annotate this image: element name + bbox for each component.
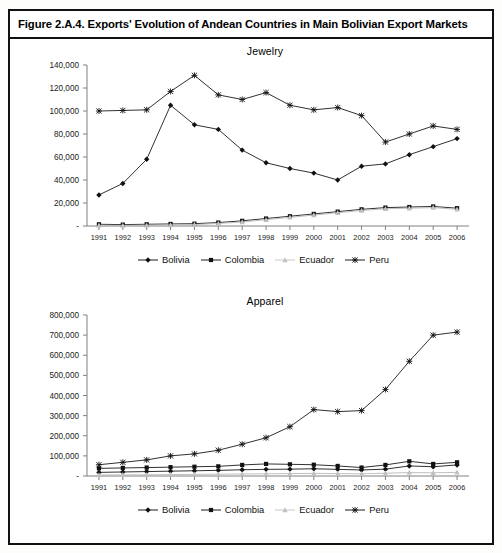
x-tick-label: 1992 xyxy=(115,483,131,492)
marker-diamond xyxy=(335,177,340,182)
marker-cross xyxy=(335,409,341,415)
series-line-colombia xyxy=(99,206,457,224)
marker-cross xyxy=(382,139,388,145)
legend-marker-triangle-icon xyxy=(274,505,296,515)
x-tick-label: 1999 xyxy=(282,233,298,242)
x-tick-label: 2001 xyxy=(329,233,345,242)
y-tick-label: 20,000 xyxy=(54,199,79,208)
marker-diamond xyxy=(407,463,412,468)
x-tick-label: 1996 xyxy=(210,233,226,242)
marker-square xyxy=(240,463,244,467)
legend-marker-square-icon xyxy=(200,505,222,515)
legend-item-peru[interactable]: Peru xyxy=(344,504,389,515)
legend-marker-square-icon xyxy=(200,255,222,265)
legend-item-colombia[interactable]: Colombia xyxy=(200,254,265,265)
marker-cross xyxy=(168,88,174,94)
x-tick-label: 2004 xyxy=(401,483,417,492)
series-line-ecuador xyxy=(99,208,457,226)
chart-jewelry: Jewelry -20,00040,00060,00080,000100,000… xyxy=(10,39,492,289)
marker-cross xyxy=(263,90,269,96)
x-tick-label: 1995 xyxy=(186,233,202,242)
figure-frame: Figure 2.A.4. Exports' Evolution of Ande… xyxy=(8,9,494,545)
legend-label: Peru xyxy=(369,504,389,515)
marker-square xyxy=(264,462,268,466)
x-tick-label: 2002 xyxy=(353,233,369,242)
marker-cross xyxy=(215,447,221,453)
legend-jewelry: BoliviaColombiaEcuadorPeru xyxy=(10,254,492,265)
marker-cross xyxy=(335,105,341,111)
y-tick-label: 100,000 xyxy=(49,452,79,461)
legend-label: Ecuador xyxy=(299,254,334,265)
y-tick-label: - xyxy=(76,222,79,231)
marker-cross xyxy=(120,107,126,113)
legend-marker-diamond-icon xyxy=(137,255,159,265)
chart-apparel: Apparel -100,000200,000300,000400,000500… xyxy=(10,289,492,541)
series-line-ecuador xyxy=(99,472,457,475)
marker-cross xyxy=(287,424,293,430)
y-tick-label: 700,000 xyxy=(49,331,79,340)
marker-cross xyxy=(406,131,412,137)
y-tick-label: 600,000 xyxy=(49,351,79,360)
x-tick-label: 1997 xyxy=(234,233,250,242)
x-tick-label: 2000 xyxy=(306,483,322,492)
x-tick-label: 2005 xyxy=(425,483,441,492)
marker-diamond xyxy=(263,160,268,165)
marker-square xyxy=(336,464,340,468)
legend-label: Colombia xyxy=(225,504,265,515)
marker-square xyxy=(455,460,459,464)
series-line-colombia xyxy=(99,461,457,468)
marker-square xyxy=(407,459,411,463)
y-tick-label: 40,000 xyxy=(54,176,79,185)
x-tick-label: 1992 xyxy=(115,233,131,242)
legend-item-colombia[interactable]: Colombia xyxy=(200,504,265,515)
marker-diamond xyxy=(407,152,412,157)
marker-cross xyxy=(120,459,126,465)
figure-caption: Figure 2.A.4. Exports' Evolution of Ande… xyxy=(10,11,492,39)
marker-cross xyxy=(215,92,221,98)
x-tick-label: 2006 xyxy=(449,483,465,492)
legend-marker-triangle-icon xyxy=(274,255,296,265)
y-tick-label: 60,000 xyxy=(54,153,79,162)
marker-cross xyxy=(454,126,460,132)
legend-item-ecuador[interactable]: Ecuador xyxy=(274,504,334,515)
marker-cross xyxy=(191,451,197,457)
x-tick-label: 1999 xyxy=(282,483,298,492)
legend-item-ecuador[interactable]: Ecuador xyxy=(274,254,334,265)
x-tick-label: 2002 xyxy=(353,483,369,492)
x-tick-label: 1993 xyxy=(138,483,154,492)
marker-cross xyxy=(96,108,102,114)
x-tick-label: 1994 xyxy=(162,483,178,492)
x-tick-label: 2004 xyxy=(401,233,417,242)
marker-cross xyxy=(359,113,365,119)
charts-container: Jewelry -20,00040,00060,00080,000100,000… xyxy=(10,39,492,545)
marker-cross xyxy=(454,329,460,335)
x-tick-label: 1998 xyxy=(258,483,274,492)
x-tick-label: 1994 xyxy=(162,233,178,242)
marker-cross xyxy=(191,72,197,78)
x-tick-label: 1996 xyxy=(210,483,226,492)
x-tick-label: 1998 xyxy=(258,233,274,242)
legend-item-bolivia[interactable]: Bolivia xyxy=(137,504,190,515)
legend-item-peru[interactable]: Peru xyxy=(344,254,389,265)
legend-label: Bolivia xyxy=(162,254,190,265)
y-tick-label: 200,000 xyxy=(49,432,79,441)
series-peru xyxy=(96,72,460,145)
marker-diamond xyxy=(145,507,150,512)
x-tick-label: 1995 xyxy=(186,483,202,492)
marker-square xyxy=(359,465,363,469)
legend-marker-cross-icon xyxy=(344,505,366,515)
marker-cross xyxy=(287,102,293,108)
chart-title-apparel: Apparel xyxy=(10,289,492,307)
y-tick-label: 80,000 xyxy=(54,130,79,139)
legend-label: Ecuador xyxy=(299,504,334,515)
marker-diamond xyxy=(430,144,435,149)
legend-label: Bolivia xyxy=(162,504,190,515)
legend-item-bolivia[interactable]: Bolivia xyxy=(137,254,190,265)
marker-cross xyxy=(311,107,317,113)
marker-cross xyxy=(144,457,150,463)
plot-area-apparel: -100,000200,000300,000400,000500,000600,… xyxy=(21,307,481,502)
y-tick-label: 300,000 xyxy=(49,412,79,421)
legend-label: Colombia xyxy=(225,254,265,265)
series-colombia xyxy=(97,204,459,226)
marker-cross xyxy=(311,407,317,413)
